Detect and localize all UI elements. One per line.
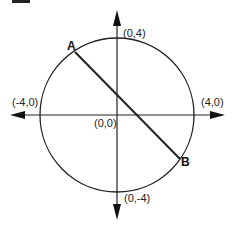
label-bottom: (0,-4)	[124, 192, 150, 204]
x-axis-right-arrow-icon	[210, 111, 225, 119]
label-left: (-4,0)	[12, 96, 38, 108]
label-origin: (0,0)	[94, 117, 117, 129]
point-a-label: A	[67, 39, 76, 53]
segment-ab	[75, 52, 180, 159]
label-top: (0,4)	[123, 27, 146, 39]
coordinate-diagram: A B (0,4) (0,-4) (-4,0) (4,0) (0,0)	[0, 0, 235, 227]
label-right: (4,0)	[201, 96, 224, 108]
y-axis-down-arrow-icon	[113, 204, 121, 220]
corner-mark	[12, 0, 30, 3]
point-b-label: B	[181, 155, 190, 169]
x-axis-left-arrow-icon	[10, 111, 25, 119]
y-axis-up-arrow-icon	[113, 10, 121, 26]
